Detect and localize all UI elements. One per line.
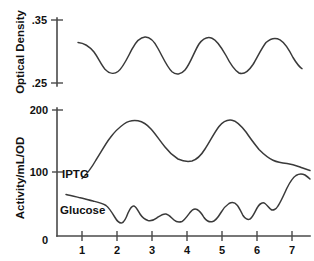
xtick-label-5: 5 (219, 244, 225, 256)
series-label-glucose: Glucose (60, 204, 105, 216)
bottom-panel-ytick-label-100: 100 (30, 166, 48, 178)
xtick-label-7: 7 (289, 244, 295, 256)
figure-container: .35 .25 Optical Density 200 100 0 Activi… (0, 0, 314, 261)
optical-density-curve (78, 37, 302, 74)
top-panel-ytick-label-035: .35 (32, 14, 47, 26)
bottom-panel: 200 100 0 Activity/mL/OD 1 2 3 4 5 6 7 I… (14, 104, 310, 256)
xtick-label-3: 3 (149, 244, 155, 256)
top-panel: .35 .25 Optical Density (14, 10, 302, 94)
series-label-iptg: IPTG (62, 168, 89, 180)
bottom-panel-y-axis-title: Activity/mL/OD (14, 137, 26, 219)
bottom-panel-ytick-label-0: 0 (42, 234, 48, 246)
xtick-label-6: 6 (254, 244, 260, 256)
xtick-label-1: 1 (79, 244, 85, 256)
xtick-label-4: 4 (184, 244, 191, 256)
xtick-label-2: 2 (114, 244, 120, 256)
two-panel-line-chart: .35 .25 Optical Density 200 100 0 Activi… (0, 0, 314, 261)
top-panel-y-axis-title: Optical Density (14, 10, 26, 94)
top-panel-ytick-label-025: .25 (32, 77, 47, 89)
bottom-panel-ytick-label-200: 200 (30, 104, 48, 116)
iptg-curve (82, 120, 310, 178)
